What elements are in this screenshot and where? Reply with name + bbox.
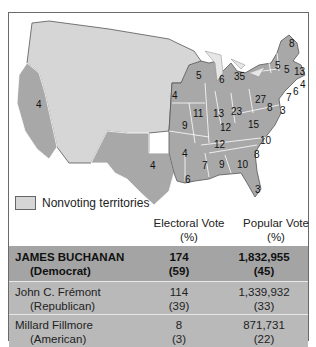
svg-text:6: 6 <box>185 174 191 185</box>
electoral-votes: 114 <box>149 285 209 299</box>
candidate-party: (Democrat) <box>15 264 133 278</box>
nonvoting-swatch <box>15 196 36 210</box>
popular-votes: 1,832,955 <box>224 250 304 264</box>
table-row: JAMES BUCHANAN(Democrat) 174(59) 1,832,9… <box>9 246 308 281</box>
svg-text:5: 5 <box>275 60 281 71</box>
table-row: John C. Frémont(Republican) 114(39) 1,33… <box>9 281 308 314</box>
svg-text:7: 7 <box>202 160 208 171</box>
candidate-name: John C. Frémont <box>15 286 101 298</box>
popular-votes: 1,339,932 <box>224 285 304 299</box>
svg-text:4: 4 <box>172 90 178 101</box>
electoral-pct: (59) <box>149 264 209 278</box>
popular-votes: 871,731 <box>224 318 304 332</box>
svg-text:7: 7 <box>286 92 292 103</box>
svg-text:4: 4 <box>182 148 188 159</box>
popular-vote-header: Popular Vote (%) <box>240 216 312 244</box>
svg-text:10: 10 <box>237 159 249 170</box>
svg-text:13: 13 <box>213 108 225 119</box>
electoral-vote-header: Electoral Vote (%) <box>149 216 229 244</box>
svg-text:8: 8 <box>267 102 273 113</box>
results-table: JAMES BUCHANAN(Democrat) 174(59) 1,832,9… <box>9 246 308 347</box>
popular-pct: (45) <box>224 264 304 278</box>
electoral-votes: 174 <box>149 250 209 264</box>
svg-text:5: 5 <box>196 70 202 81</box>
table-row: Millard Fillmore(American) 8(3) 871,731(… <box>9 314 308 347</box>
svg-text:3: 3 <box>255 184 261 195</box>
svg-text:8: 8 <box>254 149 260 160</box>
popular-pct: (33) <box>224 299 304 313</box>
svg-text:4: 4 <box>36 99 42 110</box>
legend-label: Nonvoting territories <box>42 196 149 210</box>
svg-text:8: 8 <box>289 38 295 49</box>
candidate-name: Millard Fillmore <box>15 319 93 331</box>
election-map-1856: 4 4 5 6 4 11 13 23 27 35 8 5 5 13 4 6 7 … <box>9 13 308 208</box>
candidate-name: JAMES BUCHANAN <box>15 251 124 263</box>
svg-text:6: 6 <box>293 86 299 97</box>
svg-text:35: 35 <box>234 71 246 82</box>
electoral-pct: (39) <box>149 299 209 313</box>
electoral-votes: 8 <box>149 318 209 332</box>
svg-text:5: 5 <box>284 64 290 75</box>
svg-text:10: 10 <box>260 135 272 146</box>
state-texas <box>91 131 174 205</box>
svg-text:4: 4 <box>150 160 156 171</box>
svg-text:3: 3 <box>280 105 286 116</box>
svg-text:23: 23 <box>231 106 243 117</box>
svg-text:15: 15 <box>248 119 260 130</box>
svg-text:13: 13 <box>294 66 306 77</box>
svg-text:4: 4 <box>300 79 306 90</box>
candidate-party: (Republican) <box>15 299 133 313</box>
svg-text:9: 9 <box>182 120 188 131</box>
candidate-party: (American) <box>15 332 133 346</box>
svg-text:27: 27 <box>255 94 267 105</box>
svg-text:12: 12 <box>220 122 232 133</box>
popular-pct: (22) <box>224 332 304 346</box>
svg-text:12: 12 <box>214 139 226 150</box>
svg-text:9: 9 <box>219 159 225 170</box>
map-legend: Nonvoting territories <box>15 196 149 210</box>
svg-text:6: 6 <box>219 74 225 85</box>
svg-text:11: 11 <box>193 108 204 119</box>
electoral-pct: (3) <box>149 332 209 346</box>
